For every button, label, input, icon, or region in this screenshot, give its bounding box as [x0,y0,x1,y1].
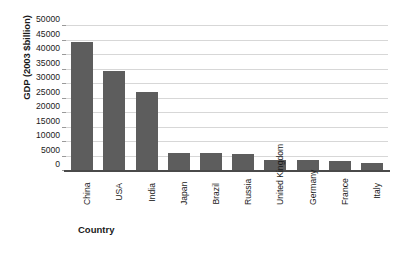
y-tick-label: 45000 [16,29,60,39]
y-tick-mark [62,156,66,157]
y-tick-label: 35000 [16,58,60,68]
bar [232,154,254,170]
bar [297,160,319,170]
y-tick-label: 50000 [16,14,60,24]
x-axis-tick-labels: ChinaUSAIndiaJapanBrazilRussiaUnited Kin… [66,172,388,270]
x-tick-label: France [340,183,350,205]
y-tick-mark [62,25,66,26]
x-axis-title: Country [78,224,114,235]
y-tick-label: 40000 [16,43,60,53]
y-tick-mark [62,112,66,113]
y-tick-label: 25000 [16,87,60,97]
y-tick-label: 10000 [16,130,60,140]
y-axis-tick-labels: 0500010000150002000025000300003500040000… [16,19,60,171]
y-tick-mark [62,69,66,70]
x-tick-label: Germany [308,183,318,205]
x-tick-label: Russia [243,183,253,205]
x-tick-label: Italy [372,183,382,205]
y-tick-label: 15000 [16,116,60,126]
x-tick-label: Japan [179,183,189,205]
bar [136,92,158,170]
gridline [66,25,388,26]
y-tick-mark [62,40,66,41]
bar [71,42,93,170]
y-tick-mark [62,54,66,55]
bar [200,153,222,170]
bar [103,71,125,170]
y-tick-mark [62,83,66,84]
bar [361,163,383,170]
gridline [66,54,388,55]
gridline [66,69,388,70]
x-tick-label: Brazil [211,183,221,205]
bar-chart: GDP (2003 $billion) 05000100001500020000… [0,0,407,272]
x-tick-label: India [147,183,157,205]
x-tick-label: United Kingdom [275,183,285,205]
bar [168,153,190,170]
plot-area [66,25,388,170]
bar [329,161,351,170]
x-tick-label: China [82,183,92,205]
y-tick-label: 5000 [16,145,60,155]
gridline [66,40,388,41]
y-tick-label: 20000 [16,101,60,111]
y-tick-mark [62,141,66,142]
x-tick-label: USA [114,183,124,205]
y-tick-mark [62,127,66,128]
y-tick-label: 30000 [16,72,60,82]
y-tick-label: 0 [16,159,60,169]
y-tick-mark [62,98,66,99]
